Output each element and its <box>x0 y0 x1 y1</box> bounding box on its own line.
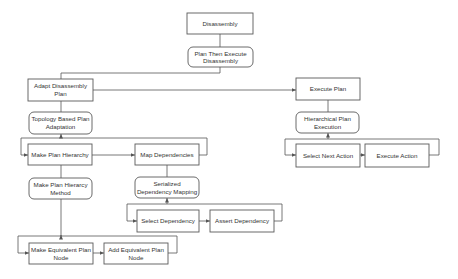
node-label: Select Next Action <box>303 152 354 159</box>
node-label: Plan Then Execute <box>194 50 247 57</box>
node-label: Select Dependency <box>141 217 196 224</box>
node-label: Adapt Disassembly <box>34 82 88 89</box>
node-label: Node <box>54 254 69 261</box>
node-make-plan-hierarchy: Make Plan Hierarchy <box>28 144 92 165</box>
node-label: Plan <box>54 90 67 97</box>
node-label: Assert Dependency <box>215 217 270 224</box>
node-label: Make Plan Hierarchy <box>31 151 89 158</box>
node-label: Make Plan Hierarcy <box>34 181 89 188</box>
node-label: Add Equivalent Plan <box>108 246 164 253</box>
node-label: Hierarchical Plan <box>304 115 351 122</box>
node-serialized-dependency-mapping: Serialized Dependency Mapping <box>135 177 199 198</box>
node-label: Make Equivalent Plan <box>31 246 91 253</box>
node-map-dependencies: Map Dependencies <box>135 144 199 165</box>
node-adapt-plan: Adapt Disassembly Plan <box>28 79 93 101</box>
node-disassembly: Disassembly <box>187 13 253 34</box>
node-label: Serialized <box>153 180 181 187</box>
node-label: Method <box>50 189 71 196</box>
node-label: Topology Based Plan <box>31 115 90 122</box>
edge-plan-adapt <box>61 67 220 79</box>
node-label: Execution <box>314 123 342 130</box>
diagram-canvas: Disassembly Plan Then Execute Disassembl… <box>0 0 458 279</box>
node-label: Dependency Mapping <box>137 188 198 195</box>
node-make-equivalent-plan-node: Make Equivalent Plan Node <box>29 243 93 264</box>
node-assert-dependency: Assert Dependency <box>210 210 274 232</box>
node-plan-then-execute: Plan Then Execute Disassembly <box>188 47 253 67</box>
node-execute-plan: Execute Plan <box>296 78 360 100</box>
node-label: Execute Action <box>377 152 418 159</box>
node-label: Map Dependencies <box>140 151 193 158</box>
node-label: Execute Plan <box>310 85 347 92</box>
node-select-dependency: Select Dependency <box>137 210 199 232</box>
node-label: Disassembly <box>202 20 238 27</box>
node-make-plan-hierarcy-method: Make Plan Hierarcy Method <box>29 178 92 199</box>
node-label: Adaptation <box>46 123 76 130</box>
node-label: Node <box>129 254 144 261</box>
node-topology-adaptation: Topology Based Plan Adaptation <box>29 112 92 134</box>
node-add-equivalent-plan-node: Add Equivalent Plan Node <box>104 243 168 264</box>
node-label: Disassembly <box>203 57 239 64</box>
node-execute-action: Execute Action <box>365 144 429 167</box>
node-select-next-action: Select Next Action <box>296 144 360 167</box>
node-hierarchical-plan-execution: Hierarchical Plan Execution <box>296 112 359 133</box>
